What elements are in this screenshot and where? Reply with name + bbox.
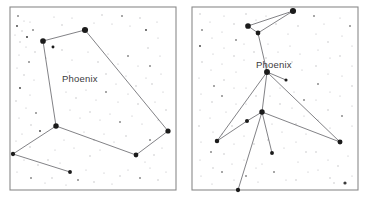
field-star: [329, 57, 330, 58]
field-star: [63, 139, 64, 140]
field-star: [211, 101, 212, 102]
field-star: [299, 53, 300, 54]
field-star: [297, 161, 298, 162]
field-star: [32, 29, 34, 31]
field-star: [30, 177, 32, 179]
field-star: [18, 54, 19, 55]
bright-star: [259, 109, 264, 114]
bright-star: [40, 38, 46, 44]
field-star: [327, 73, 328, 74]
field-star: [257, 181, 258, 182]
field-star: [89, 111, 90, 112]
field-star: [221, 31, 222, 32]
field-star: [200, 141, 201, 142]
field-star: [210, 151, 212, 153]
field-star: [160, 73, 161, 74]
field-star: [295, 179, 296, 180]
field-star: [17, 15, 19, 17]
field-star: [109, 113, 110, 114]
field-star: [351, 65, 352, 66]
constellation-canvas: PhoenixPhoenix: [0, 0, 370, 204]
bright-star: [256, 31, 261, 36]
field-star: [291, 107, 292, 108]
field-star: [221, 171, 223, 173]
bright-star: [215, 139, 220, 144]
field-star: [115, 83, 116, 84]
field-star: [139, 177, 141, 179]
field-star: [315, 33, 316, 34]
field-star: [157, 179, 158, 180]
field-star: [85, 169, 86, 170]
field-star: [233, 179, 234, 180]
bright-star: [134, 153, 139, 158]
field-star: [303, 99, 305, 101]
field-star: [89, 155, 90, 156]
field-star: [18, 117, 19, 118]
bright-star: [236, 188, 240, 192]
field-star: [211, 183, 212, 184]
field-star: [127, 55, 129, 57]
field-star: [105, 73, 106, 74]
field-star: [99, 119, 100, 120]
field-star: [125, 135, 126, 136]
field-star: [333, 182, 334, 183]
bright-star: [68, 170, 72, 174]
field-star: [275, 23, 276, 24]
field-star: [339, 95, 340, 96]
field-star: [16, 25, 18, 27]
field-star: [79, 117, 80, 118]
field-star: [243, 135, 244, 136]
field-star: [156, 21, 157, 22]
field-star: [198, 125, 199, 126]
field-star: [201, 29, 203, 31]
field-star: [97, 61, 98, 62]
field-star: [145, 77, 146, 78]
field-star: [212, 167, 213, 168]
field-star: [73, 147, 74, 148]
field-star: [223, 79, 224, 80]
field-star: [200, 175, 201, 176]
field-star: [223, 47, 224, 48]
field-star: [233, 55, 234, 56]
field-star: [289, 45, 290, 46]
field-star: [339, 17, 340, 18]
bright-star: [52, 46, 55, 49]
field-star: [53, 16, 54, 17]
field-star: [341, 75, 342, 76]
field-star: [99, 149, 100, 150]
field-star: [71, 59, 72, 60]
field-star: [235, 71, 236, 72]
field-star: [162, 91, 163, 92]
field-star: [159, 55, 160, 56]
field-star: [255, 95, 256, 96]
field-star: [329, 91, 330, 92]
field-star: [105, 91, 107, 93]
field-star: [141, 123, 142, 124]
field-star: [209, 21, 210, 22]
field-star: [26, 36, 28, 38]
field-star: [111, 23, 112, 24]
field-star: [127, 169, 128, 170]
field-star: [221, 63, 222, 64]
field-star: [137, 103, 138, 104]
field-star: [16, 67, 17, 68]
field-star: [16, 171, 17, 172]
field-star: [271, 123, 272, 124]
field-star: [29, 146, 30, 147]
field-star: [305, 151, 306, 152]
field-star: [231, 163, 232, 164]
bright-star: [284, 78, 287, 81]
field-star: [69, 109, 70, 110]
field-star: [233, 87, 234, 88]
field-star: [341, 35, 342, 36]
field-star: [233, 143, 234, 144]
field-star: [37, 164, 38, 165]
field-star: [245, 13, 246, 14]
field-star: [253, 143, 254, 144]
field-star: [212, 53, 213, 54]
field-star: [51, 177, 52, 178]
field-star: [129, 25, 130, 26]
field-star: [351, 105, 352, 106]
field-star: [144, 161, 145, 162]
bright-star: [82, 27, 88, 33]
